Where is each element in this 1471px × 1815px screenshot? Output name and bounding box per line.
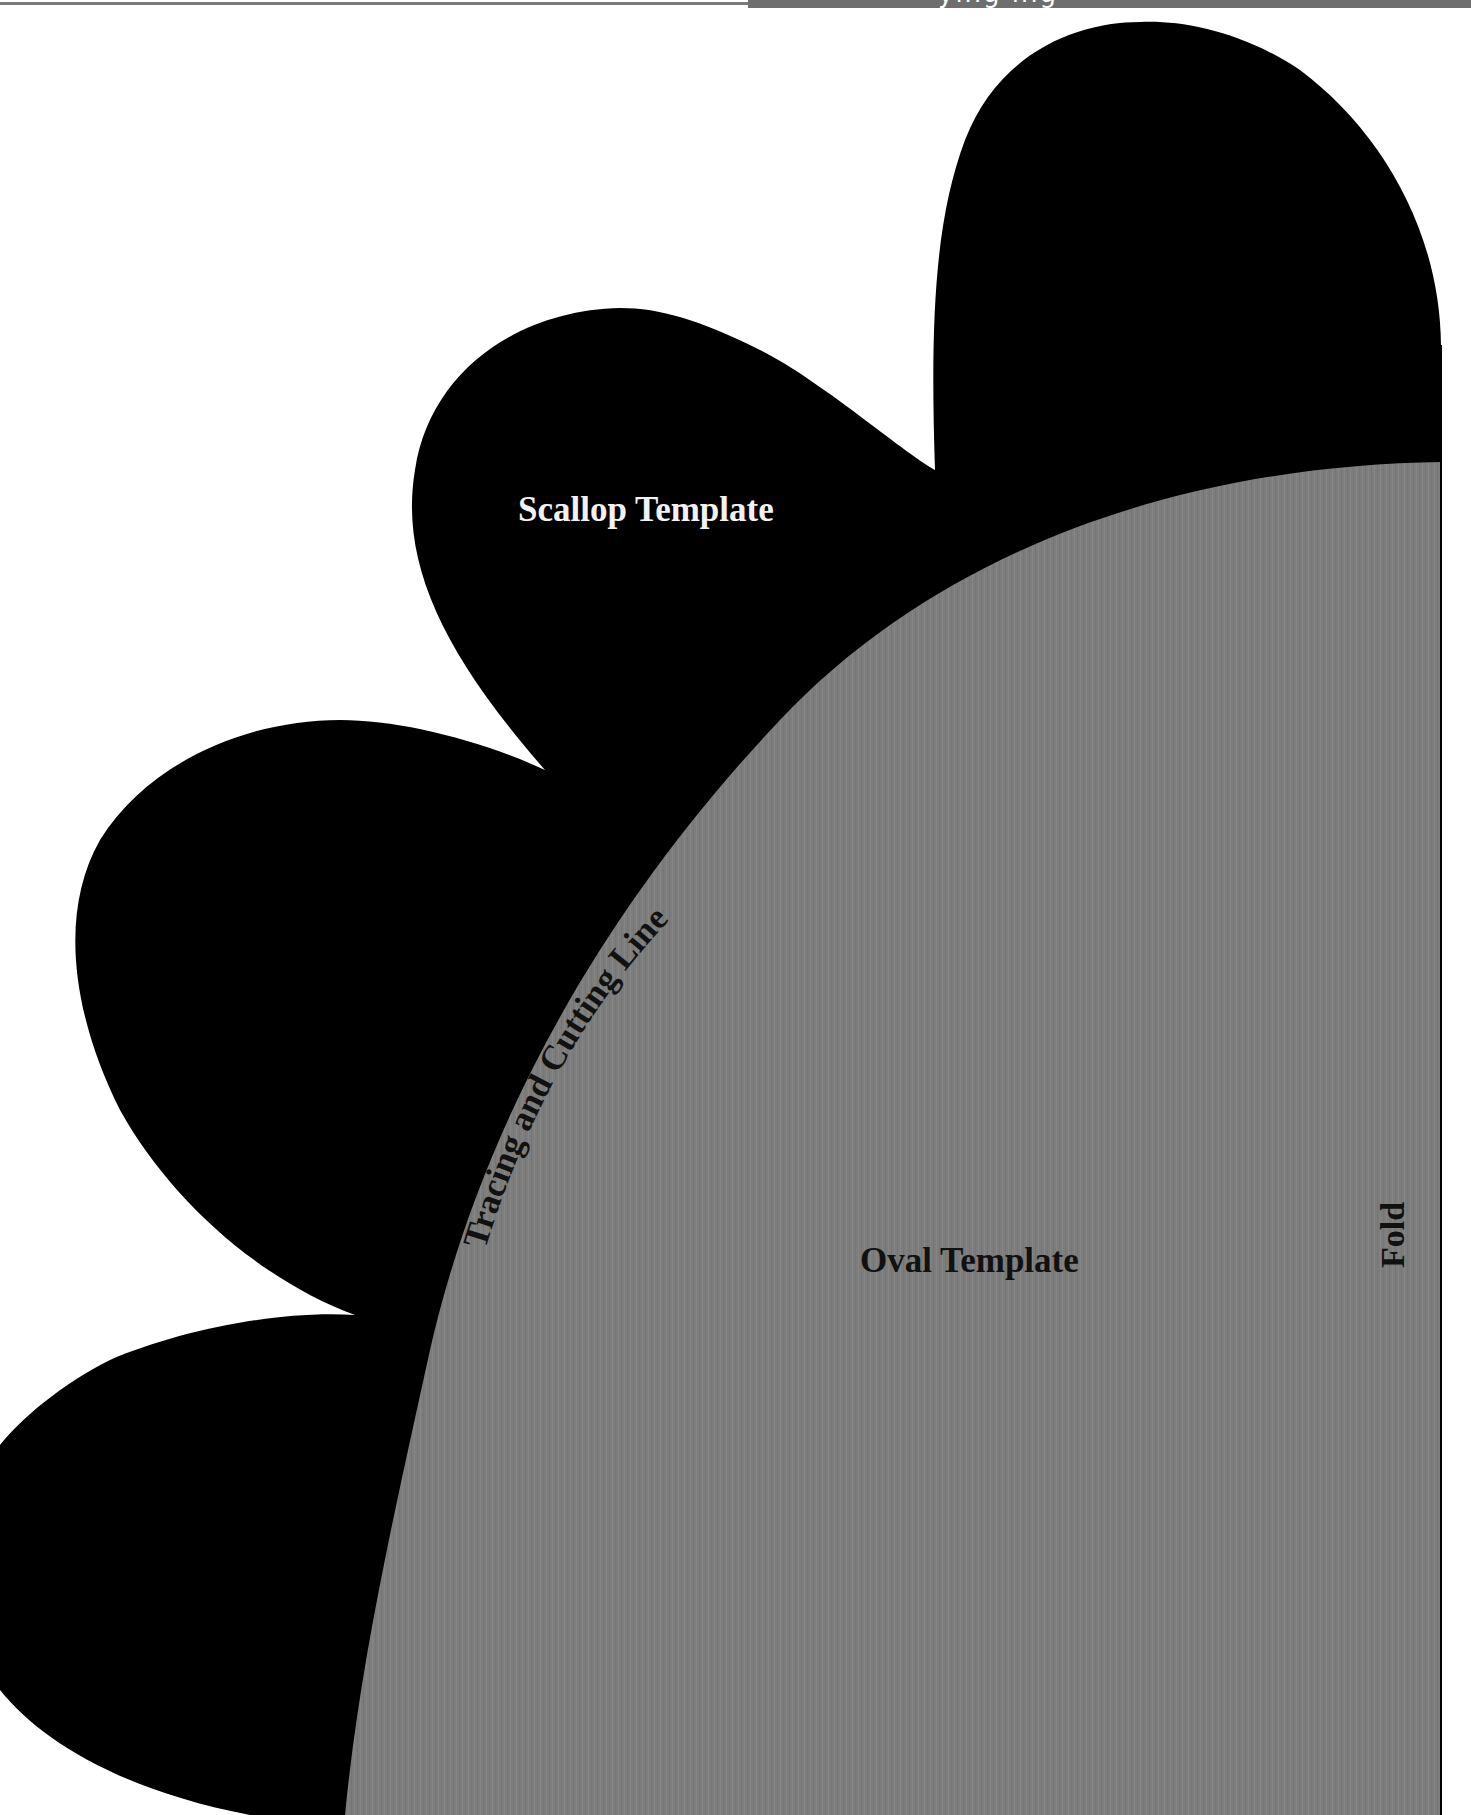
scallop-template-label: Scallop Template <box>518 492 774 527</box>
fold-label: Fold <box>1376 1202 1410 1268</box>
oval-template-label: Oval Template <box>860 1243 1079 1278</box>
template-artwork: Tracing and Cutting Line <box>0 0 1471 1815</box>
